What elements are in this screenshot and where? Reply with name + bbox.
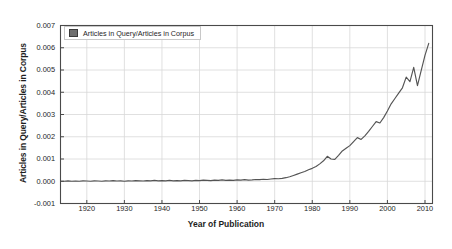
x-tick-label: 1930 <box>104 205 144 212</box>
x-tick-label: 1960 <box>217 205 257 212</box>
x-tick-label: 1950 <box>180 205 220 212</box>
x-axis-title: Year of Publication <box>0 219 452 229</box>
x-tick-label: 1990 <box>330 205 370 212</box>
x-tick-label: 1980 <box>292 205 332 212</box>
x-tick-label: 2010 <box>405 205 445 212</box>
x-tick-label: 1920 <box>67 205 107 212</box>
x-tick-label: 2000 <box>367 205 407 212</box>
chart-figure: Articles in Query/Articles in Corpus -0.… <box>0 0 452 249</box>
x-tick-label: 1940 <box>142 205 182 212</box>
x-tick-label: 1970 <box>255 205 295 212</box>
legend-swatch-icon <box>69 29 78 37</box>
legend-label: Articles in Query/Articles in Corpus <box>83 29 194 38</box>
chart-legend: Articles in Query/Articles in Corpus <box>64 26 201 40</box>
